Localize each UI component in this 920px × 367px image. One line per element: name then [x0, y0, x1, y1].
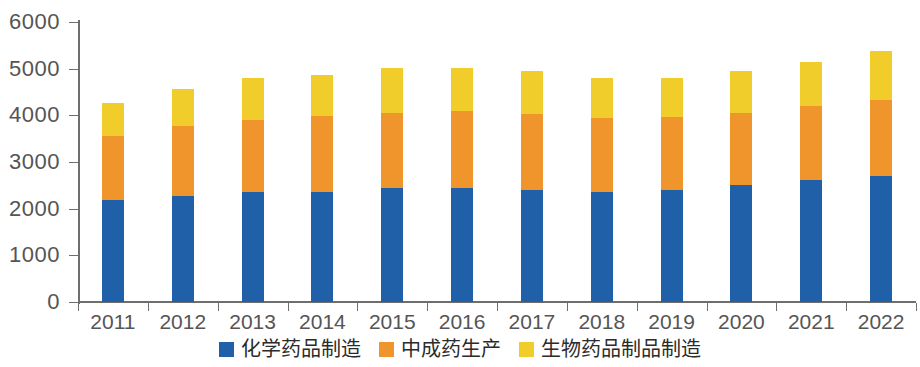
bar-segment	[451, 109, 473, 188]
x-axis-tick-label: 2018	[567, 310, 637, 334]
x-axis-tick	[916, 303, 917, 311]
y-axis-tick	[69, 162, 78, 163]
x-axis-tick-label: 2021	[776, 310, 846, 334]
legend-label: 中成药生产	[401, 338, 501, 360]
bar-segment	[800, 180, 822, 302]
y-axis-tick-label: 3000	[9, 151, 60, 173]
y-axis-tick-label: 5000	[9, 58, 60, 80]
bar-segment	[311, 192, 333, 302]
bar-2013	[242, 78, 264, 302]
x-axis-tick-label: 2020	[707, 310, 777, 334]
bar-segment	[730, 69, 752, 113]
bar-segment	[591, 76, 613, 118]
y-axis-tick	[69, 255, 78, 256]
bar-segment	[172, 124, 194, 196]
bar-segment	[381, 66, 403, 112]
y-axis-tick	[69, 209, 78, 210]
bar-segment	[172, 87, 194, 126]
bar-segment	[730, 111, 752, 185]
bar-segment	[102, 200, 124, 302]
bar-2016	[451, 68, 473, 302]
x-axis-tick-label: 2012	[148, 310, 218, 334]
x-axis-tick-label: 2013	[218, 310, 288, 334]
y-axis-tick-label-wrap: 5000	[0, 58, 64, 80]
y-axis-tick	[69, 22, 78, 23]
y-axis-tick	[69, 69, 78, 70]
bar-2015	[381, 68, 403, 302]
x-axis-tick-label: 2022	[846, 310, 916, 334]
bar-segment	[242, 76, 264, 120]
legend-item-2[interactable]: 中成药生产	[379, 338, 501, 360]
x-axis-tick-label: 2011	[78, 310, 148, 334]
y-axis-tick-label-wrap: 3000	[0, 151, 64, 173]
x-axis-tick-label: 2019	[637, 310, 707, 334]
legend-swatch-icon	[219, 342, 234, 357]
bar-2012	[172, 89, 194, 302]
bar-segment	[311, 73, 333, 117]
bar-2011	[102, 103, 124, 302]
bar-segment	[381, 188, 403, 302]
bar-segment	[870, 176, 892, 302]
legend-swatch-icon	[519, 342, 534, 357]
bar-2018	[591, 78, 613, 302]
legend-label: 生物药品制品制造	[541, 338, 701, 360]
y-axis-tick-label-wrap: 6000	[0, 11, 64, 33]
chart-legend: 化学药品制造中成药生产生物药品制品制造	[0, 338, 920, 360]
bar-segment	[102, 134, 124, 200]
bar-segment	[800, 60, 822, 106]
bar-segment	[591, 116, 613, 193]
bar-2019	[661, 78, 683, 302]
y-axis-tick-label: 6000	[9, 11, 60, 33]
bar-segment	[870, 49, 892, 100]
bar-segment	[521, 69, 543, 115]
bar-segment	[172, 196, 194, 302]
y-axis-tick-label-wrap: 2000	[0, 198, 64, 220]
x-axis-tick-label: 2015	[357, 310, 427, 334]
bar-segment	[381, 111, 403, 188]
legend-swatch-icon	[379, 342, 394, 357]
x-axis-tick-label: 2016	[427, 310, 497, 334]
y-axis-tick	[69, 115, 78, 116]
bar-2017	[521, 71, 543, 302]
legend-label: 化学药品制造	[241, 338, 361, 360]
bar-segment	[451, 66, 473, 111]
bar-2021	[800, 62, 822, 302]
bar-segment	[800, 104, 822, 180]
y-axis-tick-label-wrap: 0	[0, 291, 64, 313]
bar-segment	[242, 192, 264, 302]
y-axis-tick-label-wrap: 1000	[0, 244, 64, 266]
bar-2014	[311, 75, 333, 302]
x-axis-tick-label: 2017	[497, 310, 567, 334]
bar-segment	[102, 101, 124, 136]
bar-segment	[311, 114, 333, 192]
bar-2022	[870, 51, 892, 302]
x-axis-tick-label: 2014	[288, 310, 358, 334]
bar-segment	[591, 192, 613, 302]
bar-segment	[661, 115, 683, 190]
y-axis-tick-label: 2000	[9, 198, 60, 220]
y-axis-tick-label: 4000	[9, 104, 60, 126]
bar-segment	[451, 188, 473, 302]
y-axis-tick-label: 0	[47, 291, 60, 313]
y-axis-tick-label-wrap: 4000	[0, 104, 64, 126]
y-axis-tick-label: 1000	[9, 244, 60, 266]
plot-area	[78, 22, 916, 302]
legend-item-1[interactable]: 化学药品制造	[219, 338, 361, 360]
bar-segment	[521, 112, 543, 190]
legend-item-3[interactable]: 生物药品制品制造	[519, 338, 701, 360]
bar-2020	[730, 71, 752, 302]
bar-segment	[870, 98, 892, 176]
bar-segment	[242, 118, 264, 192]
bar-segment	[661, 190, 683, 302]
bar-segment	[730, 185, 752, 302]
bar-segment	[661, 76, 683, 117]
y-axis-tick	[69, 302, 78, 303]
bar-segment	[521, 190, 543, 302]
stacked-bar-chart: 0100020003000400050006000 20112012201320…	[0, 0, 920, 367]
